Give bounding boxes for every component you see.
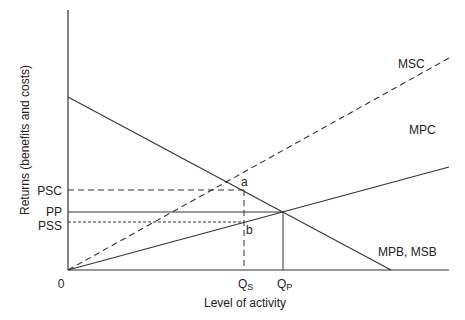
mpb-msb-curve: [68, 97, 391, 270]
y-axis-title: Returns (benefits and costs): [18, 65, 32, 215]
point-b-label: b: [246, 223, 253, 237]
psc-label: PSC: [37, 184, 62, 198]
externality-diagram: PSC PP PSS 0 QS QP a b MSC MPC MPB, MSB …: [0, 0, 465, 320]
pss-label: PSS: [38, 219, 62, 233]
pp-label: PP: [46, 205, 62, 219]
mpc-label: MPC: [409, 123, 436, 137]
qs-label: QS: [238, 277, 253, 292]
point-a-label: a: [241, 175, 248, 189]
mpb-msb-label: MPB, MSB: [378, 245, 437, 259]
msc-label: MSC: [398, 57, 425, 71]
x-axis-title: Level of activity: [204, 296, 286, 310]
msc-curve: [68, 58, 449, 270]
origin-label: 0: [58, 277, 65, 291]
qp-label: QP: [277, 277, 292, 292]
